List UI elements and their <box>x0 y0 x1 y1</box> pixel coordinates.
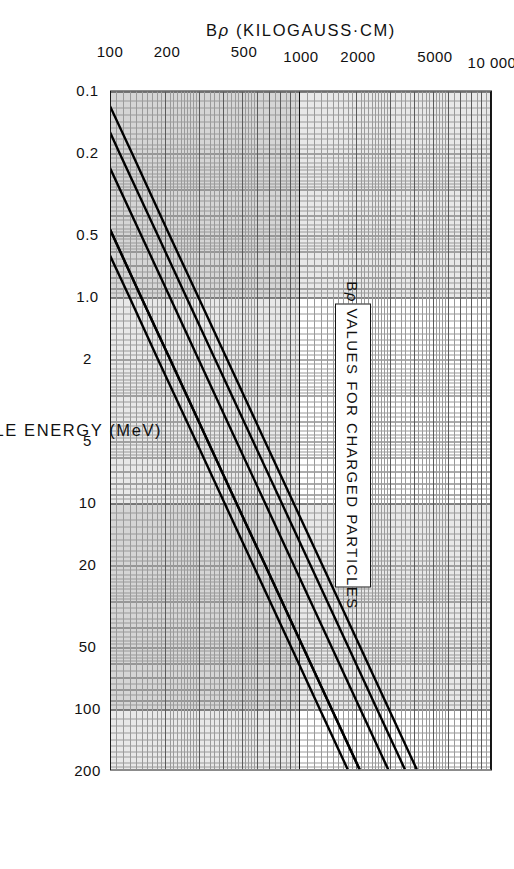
x-tick-label: 0.5 <box>76 225 98 242</box>
figure-stage: Bρ VALUES FOR CHARGED PARTICLES 0.10.20.… <box>0 0 514 869</box>
x-tick-label: 200 <box>74 762 101 779</box>
plot-area: Bρ VALUES FOR CHARGED PARTICLES <box>110 90 492 770</box>
chart-title-box: Bρ VALUES FOR CHARGED PARTICLES <box>335 303 371 587</box>
x-tick-label: 50 <box>79 637 97 654</box>
x-tick-label: 0.1 <box>76 82 98 99</box>
y-tick-label: 100 <box>97 43 124 60</box>
x-tick-label: 1.0 <box>76 287 98 304</box>
y-tick-label: 10 000 <box>468 54 514 71</box>
y-axis-title: Bρ (KILOGAUSS·CM) <box>206 21 396 40</box>
curves-svg <box>111 91 491 769</box>
y-tick-label: 1000 <box>283 47 318 64</box>
curve-layer <box>111 91 491 769</box>
x-tick-label: 0.2 <box>76 144 98 161</box>
y-tick-label: 5000 <box>417 47 452 64</box>
chart-title: Bρ VALUES FOR CHARGED PARTICLES <box>345 281 362 610</box>
x-tick-label: 20 <box>79 556 97 573</box>
x-tick-label: 100 <box>74 699 101 716</box>
x-axis-title: PARTICLE ENERGY (MeV) <box>0 421 162 440</box>
x-tick-label: 10 <box>79 493 97 510</box>
y-tick-label: 200 <box>154 43 181 60</box>
y-tick-label: 500 <box>230 43 257 60</box>
y-tick-label: 2000 <box>341 47 376 64</box>
x-tick-label: 2 <box>83 350 92 367</box>
